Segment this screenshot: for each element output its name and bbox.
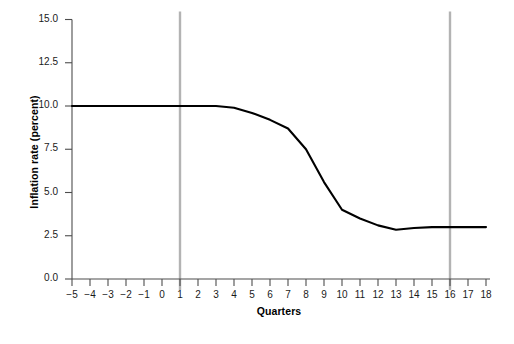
x-axis-title: Quarters (179, 305, 379, 317)
y-tick-label-7.5: 7.5 (24, 142, 58, 153)
y-tick-label-12.5: 12.5 (24, 56, 58, 67)
inflation-rate-chart: Inflation rate (percent) Quarters 0.02.5… (0, 0, 514, 344)
y-tick-label-2.5: 2.5 (24, 229, 58, 240)
x-tick-label-18: 18 (474, 289, 498, 300)
y-tick-label-0.0: 0.0 (24, 272, 58, 283)
axis-lines-group (72, 20, 490, 280)
marker-lines-group (180, 12, 450, 291)
inflation-rate-line (72, 106, 486, 230)
y-tick-label-15.0: 15.0 (24, 13, 58, 24)
y-tick-label-5.0: 5.0 (24, 186, 58, 197)
tick-marks-group (65, 20, 486, 287)
y-tick-label-10.0: 10.0 (24, 99, 58, 110)
